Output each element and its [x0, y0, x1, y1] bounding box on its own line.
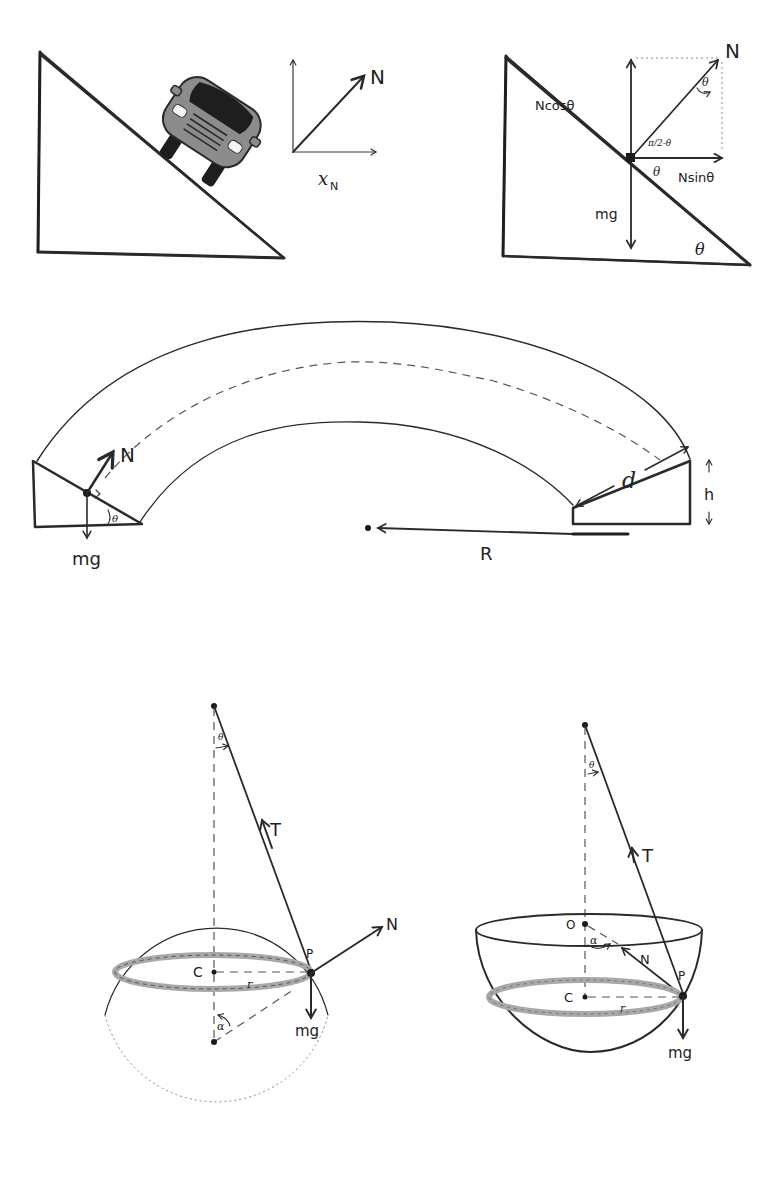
inner-arc [140, 422, 573, 522]
label-N: N [370, 65, 385, 89]
label-theta-top: θ [702, 76, 709, 89]
label-mg: mg [595, 206, 618, 222]
label-mg: mg [72, 548, 101, 569]
axes-sketch: N x N [293, 60, 385, 193]
label-r: r [620, 1002, 626, 1015]
label-Nsin: Nsinθ [678, 170, 714, 185]
diagram-sphere-pendulum: T θ C r α P N mg [105, 703, 398, 1102]
outer-arc [37, 321, 690, 461]
label-d: d [622, 468, 636, 493]
label-mg: mg [295, 1022, 319, 1040]
label-P: P [678, 969, 685, 983]
diagram-bowl-pendulum: T θ O N α C r P mg [476, 722, 702, 1062]
car-icon [138, 66, 273, 196]
label-alpha: α [217, 1020, 225, 1033]
label-x: x [318, 168, 328, 189]
diagram-sheet: N x N N Ncosθ Nsinθ mg θ π/2-θ θ θ [0, 0, 768, 1198]
label-theta: θ [218, 732, 224, 742]
label-P: P [306, 947, 313, 961]
label-N: N [725, 39, 740, 63]
label-mg: mg [668, 1044, 692, 1062]
label-pi-half-minus-theta: π/2-θ [647, 138, 672, 148]
label-N: N [640, 952, 650, 967]
label-Ncos: Ncosθ [535, 98, 575, 113]
label-h: h [704, 485, 714, 504]
label-r: r [247, 978, 253, 991]
label-N: N [120, 443, 135, 467]
label-C: C [193, 964, 203, 980]
label-T: T [269, 819, 282, 840]
label-theta-incline: θ [695, 240, 705, 259]
label-O: O [566, 918, 575, 932]
label-theta: θ [112, 513, 118, 524]
label-T: T [641, 845, 654, 866]
label-alpha: α [590, 934, 598, 947]
label-theta: θ [589, 760, 595, 770]
label-theta-base: θ [653, 165, 661, 179]
label-N: N [386, 915, 398, 934]
label-C: C [564, 990, 573, 1005]
label-R: R [480, 543, 493, 564]
center-path [105, 362, 660, 478]
label-x-sub: N [330, 180, 338, 193]
diagram-car-on-incline: N x N [38, 52, 385, 258]
diagram-force-decomposition: N Ncosθ Nsinθ mg θ π/2-θ θ θ [503, 39, 750, 265]
diagram-banked-track: N mg θ d h R [33, 321, 714, 569]
